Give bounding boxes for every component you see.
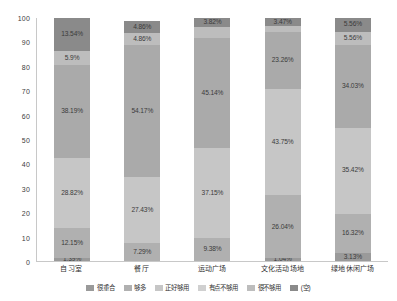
bar-segment[interactable]: 5.56%	[335, 32, 371, 46]
bar-segment-label: 28.82%	[61, 190, 83, 197]
legend-item[interactable]: (空)	[290, 283, 310, 292]
bar-column[interactable]: 3.13%16.32%35.42%34.03%5.56%5.56%	[318, 18, 388, 261]
y-axis-tick: 10	[22, 234, 30, 241]
bar-segment-label: 1.39%	[63, 258, 81, 261]
bar-segment[interactable]: 16.32%	[335, 214, 371, 254]
bar-segment[interactable]: 28.82%	[54, 158, 90, 228]
bar-segment-label: 43.75%	[272, 139, 294, 146]
bar-segment-label: 3.13%	[344, 254, 362, 261]
bar-segment-label: 4.86%	[133, 36, 151, 43]
bar-segment-label: 35.42%	[342, 167, 364, 174]
bar-segment[interactable]: 26.04%	[265, 195, 301, 258]
legend-item[interactable]: 很不够用	[247, 283, 281, 292]
bar-segment[interactable]: 4.86%	[124, 33, 160, 45]
legend-label: 很重合	[97, 283, 115, 292]
bar-segment[interactable]	[194, 27, 230, 38]
bar-segment[interactable]: 1.39%	[54, 258, 90, 261]
bar-segment[interactable]: 13.54%	[54, 18, 90, 51]
y-axis-tick: 40	[22, 161, 30, 168]
x-axis-label: 文化活动场地	[261, 263, 304, 273]
bar-segment[interactable]: 3.47%	[265, 18, 301, 26]
y-axis-tick: 60	[22, 112, 30, 119]
bar-segment-label: 16.32%	[342, 230, 364, 237]
bar-segment[interactable]: 34.03%	[335, 45, 371, 128]
bar-segment-label: 37.15%	[202, 190, 224, 197]
bar-segment[interactable]: 27.43%	[124, 177, 160, 244]
bar-segment[interactable]: 1.04%	[265, 258, 301, 261]
bar-segment-label: 54.17%	[131, 108, 153, 115]
y-axis-tick: 90	[22, 39, 30, 46]
x-axis-label: 自习室	[60, 263, 82, 273]
bar-segment[interactable]: 4.86%	[124, 21, 160, 33]
bar-stack: 9.38%37.15%45.14%3.82%	[194, 18, 230, 261]
bar-stack: 7.29%27.43%54.17%4.86%4.86%	[124, 18, 160, 261]
bar-segment[interactable]: 12.15%	[54, 228, 90, 258]
y-axis-tick: 20	[22, 210, 30, 217]
bar-segment[interactable]: 43.75%	[265, 89, 301, 195]
bar-column[interactable]: 9.38%37.15%45.14%3.82%	[177, 18, 247, 261]
bar-segment[interactable]: 54.17%	[124, 45, 160, 177]
legend-label: 有点不够用	[209, 283, 239, 292]
stacked-bar-chart: 1009080706050403020100 1.39%12.15%28.82%…	[0, 0, 397, 301]
bar-segment[interactable]: 38.19%	[54, 65, 90, 158]
bar-segment-label: 5.56%	[344, 21, 362, 28]
bar-segment-label: 3.47%	[274, 19, 292, 26]
bar-column[interactable]: 7.29%27.43%54.17%4.86%4.86%	[107, 18, 177, 261]
legend-item[interactable]: 正好够用	[155, 283, 189, 292]
bar-segment-label: 7.29%	[133, 249, 151, 256]
legend-swatch-icon	[124, 285, 132, 291]
bar-segment[interactable]	[265, 26, 301, 32]
bar-segment-label: 5.56%	[344, 35, 362, 42]
legend-item[interactable]: 很重合	[86, 283, 114, 292]
bar-segment[interactable]: 45.14%	[194, 38, 230, 148]
bar-segment-label: 12.15%	[61, 240, 83, 247]
y-axis-tick: 50	[22, 137, 30, 144]
bar-segment[interactable]: 7.29%	[124, 243, 160, 261]
bar-segment[interactable]: 5.56%	[335, 18, 371, 32]
bar-stack: 1.04%26.04%43.75%23.26%3.47%	[265, 18, 301, 261]
bar-segment-label: 45.14%	[202, 90, 224, 97]
plot-area: 1.39%12.15%28.82%38.19%5.9%13.54%7.29%27…	[36, 18, 388, 262]
bar-column[interactable]: 1.39%12.15%28.82%38.19%5.9%13.54%	[37, 18, 107, 261]
y-axis: 1009080706050403020100	[0, 18, 34, 262]
legend-swatch-icon	[290, 285, 298, 291]
bar-stack: 1.39%12.15%28.82%38.19%5.9%13.54%	[54, 18, 90, 261]
bar-segment-label: 9.38%	[203, 246, 221, 253]
bar-segment-label: 23.26%	[272, 57, 294, 64]
bar-segment-label: 1.04%	[274, 258, 292, 261]
legend-swatch-icon	[86, 285, 94, 291]
bar-segment[interactable]: 23.26%	[265, 32, 301, 89]
legend-label: 够多	[134, 283, 146, 292]
bar-column[interactable]: 1.04%26.04%43.75%23.26%3.47%	[248, 18, 318, 261]
x-axis-label: 绿地休闲广场	[331, 263, 374, 273]
y-axis-tick: 100	[18, 15, 30, 22]
legend-item[interactable]: 够多	[124, 283, 146, 292]
y-axis-tick: 70	[22, 88, 30, 95]
legend-label: 很不够用	[258, 283, 282, 292]
bar-segment-label: 3.82%	[203, 19, 221, 26]
legend-label: (空)	[301, 283, 311, 292]
bar-segment[interactable]: 35.42%	[335, 128, 371, 214]
chart-legend: 很重合够多正好够用有点不够用很不够用(空)	[0, 283, 397, 292]
legend-swatch-icon	[155, 285, 163, 291]
legend-label: 正好够用	[165, 283, 189, 292]
bar-stack: 3.13%16.32%35.42%34.03%5.56%5.56%	[335, 18, 371, 261]
bar-segment[interactable]: 3.13%	[335, 253, 371, 261]
x-axis-label: 餐厅	[134, 263, 148, 273]
legend-swatch-icon	[247, 285, 255, 291]
legend-item[interactable]: 有点不够用	[198, 283, 238, 292]
bar-segment[interactable]: 9.38%	[194, 238, 230, 261]
y-axis-tick: 0	[26, 259, 30, 266]
y-axis-tick: 80	[22, 63, 30, 70]
bar-segment[interactable]: 3.82%	[194, 18, 230, 27]
x-axis-label: 运动广场	[198, 263, 227, 273]
x-axis: 自习室餐厅运动广场文化活动场地绿地休闲广场	[36, 263, 388, 277]
bar-segment[interactable]: 37.15%	[194, 148, 230, 238]
bar-segment-label: 27.43%	[131, 207, 153, 214]
bar-segment-label: 4.86%	[133, 24, 151, 31]
bar-segment[interactable]: 5.9%	[54, 51, 90, 65]
bar-segment-label: 26.04%	[272, 224, 294, 231]
bar-segment-label: 5.9%	[65, 55, 80, 62]
bar-segment-label: 38.19%	[61, 108, 83, 115]
y-axis-tick: 30	[22, 185, 30, 192]
